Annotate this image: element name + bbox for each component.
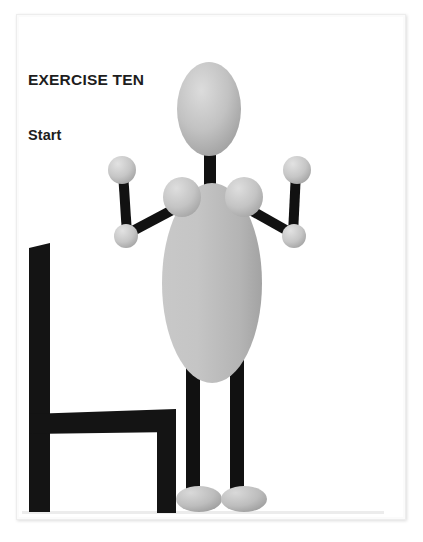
leg-right xyxy=(230,360,244,493)
foot-left xyxy=(176,486,222,512)
chair-front-leg xyxy=(157,414,176,513)
exercise-illustration xyxy=(0,0,423,542)
arm-right-upper-joint xyxy=(283,156,311,184)
chair-seat xyxy=(29,409,176,434)
chair xyxy=(29,243,176,513)
chair-backrest xyxy=(29,243,50,512)
shoulder-right xyxy=(225,177,263,217)
leg-left xyxy=(186,360,200,493)
page-root: EXERCISE TEN Start xyxy=(0,0,423,542)
figure xyxy=(108,62,311,512)
arm-right-lower-joint xyxy=(282,224,306,248)
arm-left-lower-joint xyxy=(114,224,138,248)
head xyxy=(177,62,241,156)
arm-left-upper-joint xyxy=(108,156,136,184)
foot-right xyxy=(221,486,267,512)
shoulder-left xyxy=(163,177,201,217)
